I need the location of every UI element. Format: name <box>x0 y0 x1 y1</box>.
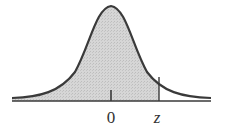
z-label: z <box>153 108 161 127</box>
normal-curve-diagram: 0 z <box>0 0 226 131</box>
shaded-area <box>12 6 211 101</box>
mean-label: 0 <box>107 108 116 127</box>
